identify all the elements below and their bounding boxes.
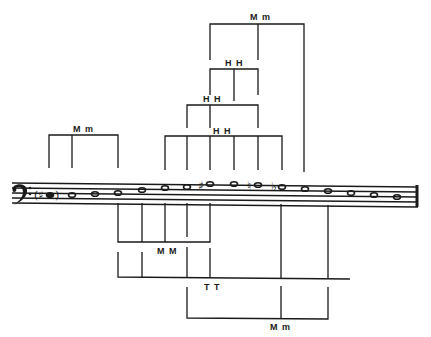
label-hh-top: H H (225, 58, 244, 68)
bracket-mm-below (118, 203, 210, 242)
label-top-mm: M m (250, 12, 271, 22)
label-bottom-mm: M m (270, 322, 291, 332)
bracket-left-mm (49, 135, 118, 168)
note-6 (184, 185, 191, 190)
note-1 (69, 193, 76, 198)
note-4 (139, 188, 146, 193)
bracket-hh-mid (187, 105, 258, 128)
staff (12, 183, 418, 207)
bracket-hh-low (165, 136, 282, 170)
bracket-top-mm (210, 24, 304, 172)
note-13 (348, 191, 355, 196)
label-left-mm: M m (73, 124, 94, 134)
parenthesized-sharp: (♯ (34, 189, 44, 202)
note-3 (115, 191, 122, 196)
note-filled (47, 193, 54, 198)
note-11 (302, 187, 309, 192)
flat-accidental: ♭ (271, 180, 277, 194)
label-hh-mid: H H (203, 94, 222, 104)
label-below-mm: M M (157, 246, 178, 256)
bass-clef-icon (13, 184, 32, 205)
label-hh-low: H H (213, 126, 232, 136)
svg-text:): ) (55, 189, 59, 202)
note-10 (279, 185, 286, 190)
note-5 (162, 186, 169, 191)
label-tt: T T (204, 282, 221, 292)
note-7 (207, 182, 214, 187)
natural-accidental: ♮ (247, 179, 251, 193)
note-14 (371, 193, 378, 198)
sharp-accidental: ♯ (198, 179, 204, 193)
note-8 (231, 182, 238, 187)
